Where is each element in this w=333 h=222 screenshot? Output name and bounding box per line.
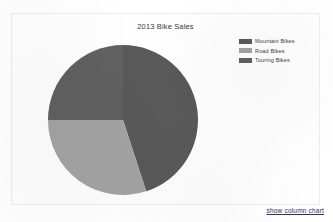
plot-area: Mountain Bikes Road Bikes Touring Bikes (12, 14, 319, 204)
chart-panel: 2013 Bike Sales Mountain Bikes Road Bike… (11, 13, 320, 205)
legend-swatch-icon (239, 39, 252, 44)
legend-item-road-bikes[interactable]: Road Bikes (239, 47, 315, 55)
page-root: 2013 Bike Sales Mountain Bikes Road Bike… (0, 0, 333, 222)
legend-item-mountain-bikes[interactable]: Mountain Bikes (239, 37, 315, 45)
legend-swatch-icon (239, 48, 252, 53)
chart-legend: Mountain Bikes Road Bikes Touring Bikes (239, 37, 315, 66)
legend-item-label: Road Bikes (255, 47, 285, 55)
legend-item-touring-bikes[interactable]: Touring Bikes (239, 56, 315, 64)
show-column-chart-link[interactable]: show column chart (266, 207, 324, 214)
legend-item-label: Mountain Bikes (255, 37, 295, 45)
pie-chart (45, 42, 201, 198)
legend-swatch-icon (239, 58, 252, 63)
footer-link-row: show column chart (0, 206, 333, 222)
legend-item-label: Touring Bikes (255, 56, 290, 64)
pie-slice-touring-bikes[interactable] (48, 45, 123, 120)
